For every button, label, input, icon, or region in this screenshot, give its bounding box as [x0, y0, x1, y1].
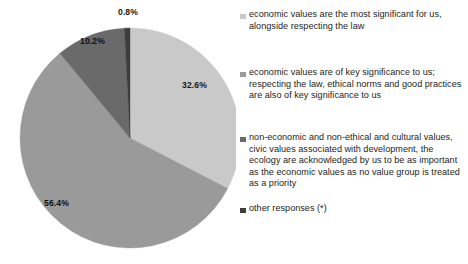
- pie-chart-plot-area: 0.8% 32.6% 56.4% 10.2%: [0, 0, 236, 264]
- slice-value-label-economic-key-significance: 10.2%: [80, 36, 105, 46]
- legend-swatch-icon: [240, 137, 246, 143]
- pie-slice-group: [20, 28, 236, 248]
- legend-swatch-icon: [240, 14, 246, 20]
- legend-item-label: economic values are the most significant…: [249, 9, 462, 32]
- legend-swatch-icon: [240, 72, 246, 78]
- legend-item-economic-key-significance[interactable]: economic values are of key significance …: [240, 67, 462, 102]
- pie-chart-svg: [0, 0, 236, 264]
- legend-item-label: other responses (*): [249, 203, 327, 215]
- slice-value-label-other-responses: 0.8%: [118, 7, 138, 17]
- legend-item-non-economic-cultural[interactable]: non-economic and non-ethical and cultura…: [240, 132, 462, 190]
- slice-value-label-economic-most-significant: 32.6%: [182, 80, 207, 90]
- pie-chart-figure: 0.8% 32.6% 56.4% 10.2% economic values a…: [0, 0, 468, 264]
- legend-item-other-responses[interactable]: other responses (*): [240, 203, 462, 215]
- slice-value-label-non-economic: 56.4%: [44, 198, 69, 208]
- legend-item-economic-most-significant[interactable]: economic values are the most significant…: [240, 9, 462, 32]
- legend-item-label: non-economic and non-ethical and cultura…: [249, 132, 462, 190]
- legend-item-label: economic values are of key significance …: [249, 67, 462, 102]
- legend-swatch-icon: [240, 208, 246, 214]
- chart-legend: economic values are the most significant…: [240, 0, 468, 264]
